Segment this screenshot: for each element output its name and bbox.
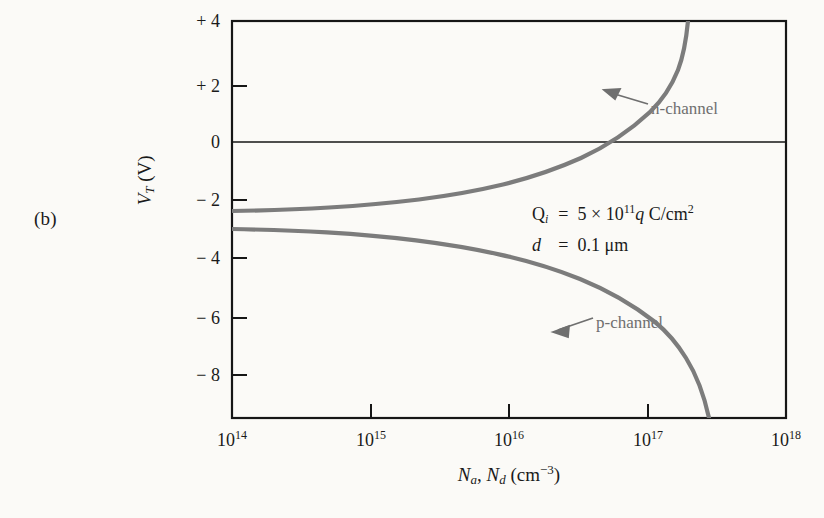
n-channel-curve bbox=[232, 21, 688, 211]
n-channel-arrow-head bbox=[604, 89, 620, 99]
figure-panel-b: (b) VT (V) Na, Nd (cm−3) + 4 + 2 0 − 2 −… bbox=[0, 0, 824, 518]
plot-frame bbox=[232, 21, 786, 418]
p-channel-curve bbox=[232, 229, 709, 418]
data-curves bbox=[232, 21, 709, 418]
x-axis-ticks bbox=[371, 404, 648, 418]
plot-canvas bbox=[0, 0, 824, 518]
p-channel-arrow-head bbox=[553, 326, 569, 337]
